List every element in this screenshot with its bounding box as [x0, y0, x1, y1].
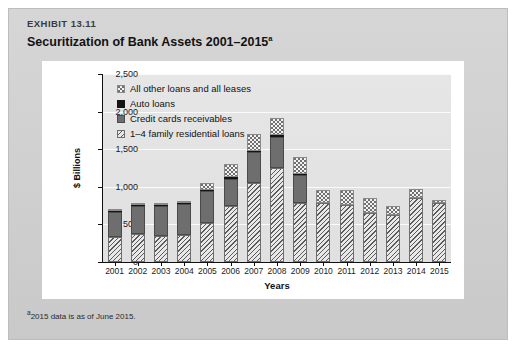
gridline [103, 74, 451, 75]
legend-item: All other loans and all leases [117, 82, 251, 95]
x-tick-label: 2011 [337, 266, 355, 276]
bar-segment-other [224, 164, 238, 177]
chart-legend: All other loans and all leasesAuto loans… [117, 82, 251, 140]
y-axis-line [102, 74, 103, 262]
legend-label: Credit cards receivables [130, 113, 232, 124]
bar-segment-residential [154, 236, 168, 262]
x-tick-label: 2007 [244, 266, 263, 276]
x-tick-label: 2005 [198, 266, 217, 276]
x-tick-label: 2013 [384, 266, 403, 276]
bar-segment-residential [409, 198, 423, 262]
x-tick-label: 2010 [314, 266, 333, 276]
chart-plot-area: 05001,0001,5002,0002,500 $ Billions 2001… [103, 74, 451, 262]
y-tick-mark [98, 74, 103, 75]
bar-2010[interactable] [316, 190, 330, 262]
bar-segment-other [340, 190, 354, 205]
bar-segment-other [293, 157, 307, 174]
bar-segment-residential [432, 203, 446, 262]
dotted-stipple-swatch [117, 85, 125, 93]
bar-2015[interactable] [432, 200, 446, 262]
bar-segment-creditcards [293, 175, 307, 203]
exhibit-title: Securitization of Bank Assets 2001–2015a [27, 31, 467, 50]
bar-segment-other [363, 198, 377, 213]
bar-segment-other [386, 206, 400, 215]
exhibit-heading: EXHIBIT 13.11 Securitization of Bank Ass… [27, 17, 467, 50]
bar-segment-creditcards [177, 204, 191, 235]
x-tick-label: 2015 [430, 266, 449, 276]
bar-segment-residential [108, 237, 122, 262]
bar-segment-residential [363, 213, 377, 262]
bar-segment-creditcards [247, 152, 261, 183]
exhibit-title-superscript: a [268, 34, 272, 43]
bar-segment-other [409, 189, 423, 198]
x-tick-label: 2004 [175, 266, 194, 276]
legend-label: Auto loans [130, 98, 175, 109]
x-axis-title: Years [103, 280, 451, 291]
bar-2001[interactable] [108, 209, 122, 262]
bar-segment-creditcards [154, 206, 168, 236]
y-tick-mark [98, 112, 103, 113]
bar-segment-residential [386, 215, 400, 262]
y-tick-mark [98, 187, 103, 188]
bar-2002[interactable] [131, 203, 145, 262]
x-tick-label: 2002 [128, 266, 147, 276]
bar-segment-residential [177, 235, 191, 262]
x-tick-label: 2001 [105, 266, 124, 276]
bar-2011[interactable] [340, 190, 354, 262]
exhibit-panel: EXHIBIT 13.11 Securitization of Bank Ass… [8, 8, 508, 340]
bar-segment-creditcards [270, 137, 284, 168]
solid-black-swatch [117, 100, 125, 108]
bar-segment-residential [293, 203, 307, 262]
x-tick-label: 2009 [291, 266, 310, 276]
exhibit-label: EXHIBIT 13.11 [27, 17, 467, 30]
bar-segment-residential [224, 206, 238, 262]
x-tick-label: 2003 [152, 266, 171, 276]
bar-2003[interactable] [154, 203, 168, 262]
solid-gray-swatch [117, 115, 125, 123]
chart-card: 05001,0001,5002,0002,500 $ Billions 2001… [42, 61, 464, 299]
bar-2005[interactable] [200, 183, 214, 262]
x-tick-label: 2006 [221, 266, 240, 276]
bar-segment-residential [316, 203, 330, 262]
bar-segment-creditcards [200, 191, 214, 222]
footnote-text: 2015 data is as of June 2015. [31, 312, 136, 321]
diagonal-hatch-swatch [117, 130, 125, 138]
bar-segment-residential [247, 183, 261, 262]
legend-label: 1–4 family residential loans [130, 128, 245, 139]
legend-item: Auto loans [117, 97, 251, 110]
bar-segment-other [270, 118, 284, 135]
legend-label: All other loans and all leases [130, 83, 251, 94]
bar-segment-residential [340, 205, 354, 262]
x-tick-label: 2014 [407, 266, 426, 276]
exhibit-title-text: Securitization of Bank Assets 2001–2015 [27, 35, 268, 49]
bar-segment-residential [200, 223, 214, 262]
exhibit-footnote: a2015 data is as of June 2015. [27, 309, 136, 321]
y-tick-mark [98, 149, 103, 150]
bar-2014[interactable] [409, 189, 423, 262]
bar-segment-creditcards [224, 179, 238, 206]
bar-2009[interactable] [293, 157, 307, 262]
x-tick-label: 2012 [360, 266, 379, 276]
bar-segment-residential [270, 168, 284, 262]
bar-segment-residential [131, 234, 145, 262]
legend-item: Credit cards receivables [117, 112, 251, 125]
y-tick-mark [98, 224, 103, 225]
y-tick-mark [98, 262, 103, 263]
bar-2008[interactable] [270, 118, 284, 262]
x-tick-label: 2008 [268, 266, 287, 276]
bar-2012[interactable] [363, 198, 377, 262]
bar-2004[interactable] [177, 201, 191, 262]
bar-segment-other [316, 190, 330, 204]
bar-2006[interactable] [224, 164, 238, 262]
bar-2013[interactable] [386, 206, 400, 262]
y-axis-title: $ Billions [72, 148, 82, 188]
bar-segment-creditcards [108, 212, 122, 238]
bar-2007[interactable] [247, 134, 261, 262]
bar-segment-other [200, 183, 214, 190]
legend-item: 1–4 family residential loans [117, 127, 251, 140]
bar-segment-creditcards [131, 206, 145, 234]
